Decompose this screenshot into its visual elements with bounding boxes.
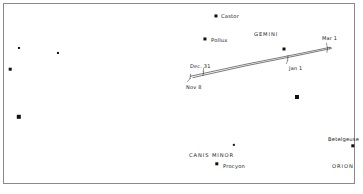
orion-label: ORION <box>332 163 354 169</box>
date-label-jan-1: Jan 1 <box>289 65 302 71</box>
date-label-nov-8: Nov 8 <box>186 84 202 90</box>
procyon-label: Procyon <box>223 163 245 169</box>
field-star-left-4 <box>17 115 21 119</box>
gemini-star-1 <box>283 48 286 51</box>
procyon-star <box>215 162 218 165</box>
gemini-label: GEMINI <box>254 31 278 37</box>
canis-minor-label: CANIS MINOR <box>189 152 234 158</box>
canis-minor-star <box>233 144 235 146</box>
date-label-mar-1: Mar 1 <box>322 35 337 41</box>
field-star-left-1 <box>18 47 20 49</box>
field-star-left-2 <box>57 52 59 54</box>
date-label-dec-31: Dec. 31 <box>190 63 211 69</box>
pollux-label: Pollux <box>211 37 228 43</box>
castor-star <box>214 14 217 17</box>
star-chart-figure: CastorPolluxProcyonBetelgeuseGEMINICANIS… <box>0 0 363 194</box>
sky-field: CastorPolluxProcyonBetelgeuseGEMINICANIS… <box>0 0 363 194</box>
field-star-mid-1 <box>295 95 299 99</box>
betelgeuse-star <box>351 144 354 147</box>
pollux-star <box>203 37 206 40</box>
betelgeuse-label: Betelgeuse <box>328 136 359 142</box>
field-star-left-3 <box>9 68 12 71</box>
castor-label: Castor <box>221 13 239 19</box>
